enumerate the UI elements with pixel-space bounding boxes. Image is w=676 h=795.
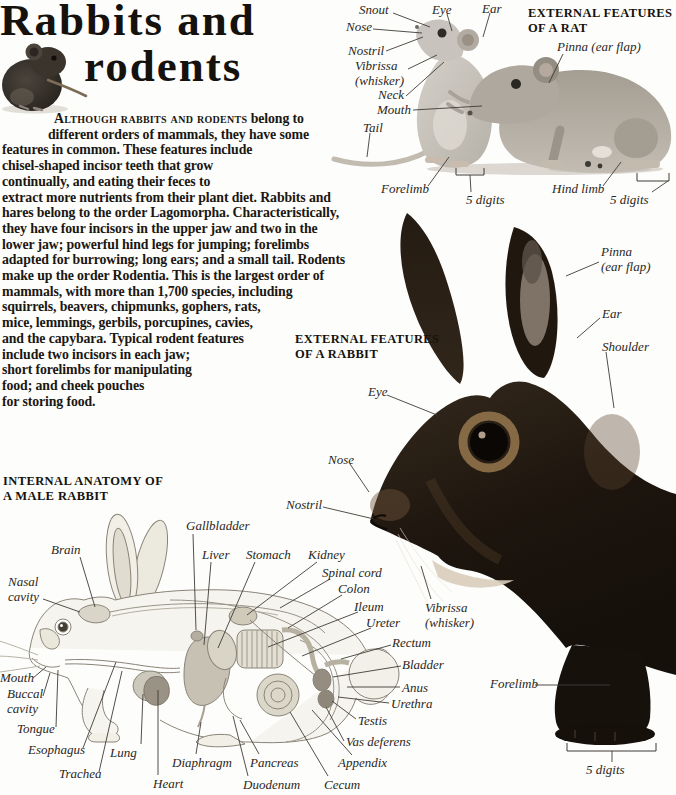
rat-label-forelimb: Forelimb (381, 182, 429, 197)
intro-line: for storing food. (2, 394, 402, 410)
anatomy-label-duodenum: Duodenum (243, 778, 300, 793)
rabbit-heading-line1: EXTERNAL FEATURES (295, 332, 439, 347)
intro-line: squirrels, beavers, chipmunks, gophers, … (2, 299, 402, 315)
anatomy-label-buccal-cavity: Buccal cavity (7, 687, 43, 716)
page-title-line2: rodents (84, 42, 242, 90)
rabbit-label-nostril: Nostril (286, 498, 322, 513)
anatomy-label-trachea: Trachea (59, 767, 102, 782)
text-layer: Rabbits and rodents Although rabbits and… (0, 0, 676, 795)
rabbit-label-shoulder: Shoulder (602, 340, 649, 355)
intro-line: chisel-shaped incisor teeth that grow (2, 158, 402, 174)
rat-label-neck: Neck (378, 88, 404, 103)
intro-line: mammals, with more than 1,700 species, i… (2, 284, 402, 300)
anatomy-label-pancreas: Pancreas (250, 756, 299, 771)
intro-line: extract more nutrients from their plant … (2, 190, 402, 206)
rabbit-label-digits: 5 digits (586, 763, 625, 778)
rat-label-ear: Ear (482, 2, 502, 17)
anatomy-label-stomach: Stomach (246, 548, 291, 563)
anatomy-label-ureter: Ureter (366, 616, 400, 631)
rabbit-label-nose: Nose (328, 453, 354, 468)
book-page: Rabbits and rodents Although rabbits and… (0, 0, 676, 795)
intro-line: adapted for burrowing; long ears; and a … (2, 252, 402, 268)
rabbit-section-heading: EXTERNAL FEATURES OF A RABBIT (295, 332, 439, 362)
rat-label-eye: Eye (432, 3, 451, 18)
rat-label-hindlimb: Hind limb (552, 182, 604, 197)
anatomy-heading-line1: INTERNAL ANATOMY OF (3, 474, 163, 489)
rat-label-nose: Nose (346, 20, 372, 35)
anatomy-label-testis: Testis (358, 714, 387, 729)
rabbit-heading-line2: OF A RABBIT (295, 347, 439, 362)
intro-line: mice, lemmings, gerbils, porcupines, cav… (2, 315, 402, 331)
anatomy-label-diaphragm: Diaphragm (172, 756, 232, 771)
anatomy-label-brain: Brain (51, 543, 81, 558)
rat-label-mouth: Mouth (377, 103, 411, 118)
anatomy-label-kidney: Kidney (308, 548, 345, 563)
rat-label-nostril: Nostril (348, 44, 384, 59)
rabbit-label-vibrissa: Vibrissa (whisker) (425, 601, 474, 630)
anatomy-label-bladder: Bladder (402, 658, 444, 673)
anatomy-section-heading: INTERNAL ANATOMY OF A MALE RABBIT (3, 474, 163, 504)
anatomy-label-urethra: Urethra (391, 697, 432, 712)
intro-line: features in common. These features inclu… (2, 142, 402, 158)
anatomy-label-lung: Lung (110, 746, 137, 761)
rabbit-label-ear: Ear (602, 307, 622, 322)
anatomy-label-mouth: Mouth (0, 671, 34, 686)
anatomy-label-nasal-cavity: Nasal cavity (8, 575, 39, 604)
anatomy-label-esophagus: Esophagus (28, 743, 85, 758)
intro-line: they have four incisors in the upper jaw… (2, 221, 402, 237)
rat-label-tail: Tail (363, 121, 383, 136)
rat-label-snout: Snout (359, 3, 389, 18)
anatomy-label-spinal-cord: Spinal cord (322, 566, 382, 581)
rat-label-digits-front: 5 digits (466, 193, 505, 208)
rat-label-digits-hind: 5 digits (610, 193, 649, 208)
rat-heading-line1: EXTERNAL FEATURES (528, 6, 672, 21)
anatomy-heading-line2: A MALE RABBIT (3, 489, 163, 504)
anatomy-label-colon: Colon (338, 582, 370, 597)
anatomy-label-heart: Heart (153, 777, 183, 792)
intro-line: make up the order Rodentia. This is the … (2, 268, 402, 284)
anatomy-label-rectum: Rectum (392, 636, 431, 651)
anatomy-label-vas-deferens: Vas deferens (346, 735, 411, 750)
intro-paragraph: Although rabbits and rodents belong todi… (2, 111, 402, 409)
anatomy-label-gallbladder: Gallbladder (186, 519, 250, 534)
anatomy-label-liver: Liver (202, 548, 229, 563)
intro-line: different orders of mammals, they have s… (2, 127, 402, 143)
page-title-line1: Rabbits and (0, 0, 256, 44)
rat-section-heading: EXTERNAL FEATURES OF A RAT (528, 6, 672, 36)
intro-line: food; and cheek pouches (2, 378, 402, 394)
anatomy-label-anus: Anus (402, 681, 428, 696)
anatomy-label-ileum: Ileum (354, 600, 384, 615)
intro-line: Although rabbits and rodents belong to (2, 111, 402, 127)
anatomy-label-appendix: Appendix (338, 756, 387, 771)
rat-heading-line2: OF A RAT (528, 21, 672, 36)
rabbit-label-forelimb: Forelimb (490, 677, 538, 692)
rat-label-pinna: Pinna (ear flap) (557, 40, 641, 55)
anatomy-label-tongue: Tongue (17, 722, 55, 737)
intro-line: hares belong to the order Lagomorpha. Ch… (2, 205, 402, 221)
rabbit-label-pinna: Pinna (ear flap) (601, 245, 650, 274)
rabbit-label-eye: Eye (368, 385, 387, 400)
intro-lead: Although rabbits and rodents (54, 111, 247, 126)
intro-line: continually, and eating their feces to (2, 174, 402, 190)
anatomy-label-cecum: Cecum (324, 778, 360, 793)
rat-label-vibrissa: Vibrissa (whisker) (355, 59, 404, 88)
intro-line: short forelimbs for manipulating (2, 362, 402, 378)
intro-line: lower jaw; powerful hind legs for jumpin… (2, 237, 402, 253)
